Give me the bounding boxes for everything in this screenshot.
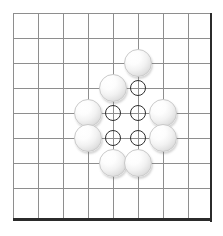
go-stone-white[interactable] — [99, 149, 127, 177]
circle-marker-icon[interactable] — [130, 130, 146, 146]
circle-marker-icon[interactable] — [105, 130, 121, 146]
go-stone-white[interactable] — [124, 149, 152, 177]
go-board-diagram — [0, 0, 223, 236]
grid-line-horizontal-0 — [13, 13, 211, 14]
go-stone-white[interactable] — [74, 99, 102, 127]
go-stone-white[interactable] — [149, 99, 177, 127]
circle-marker-icon[interactable] — [130, 80, 146, 96]
circle-marker-icon[interactable] — [105, 105, 121, 121]
go-stone-white[interactable] — [124, 49, 152, 77]
go-stone-white[interactable] — [99, 74, 127, 102]
goban[interactable] — [0, 0, 223, 236]
go-stone-white[interactable] — [149, 124, 177, 152]
grid-line-horizontal-2 — [13, 63, 211, 64]
grid-line-horizontal-1 — [13, 38, 211, 39]
bottom-edge — [13, 218, 212, 221]
go-stone-white[interactable] — [74, 124, 102, 152]
circle-marker-icon[interactable] — [130, 105, 146, 121]
right-edge — [210, 13, 212, 222]
grid-line-horizontal-7 — [13, 188, 211, 189]
